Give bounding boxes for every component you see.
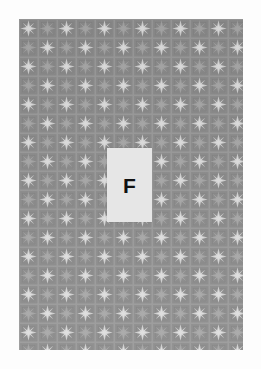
letter-card: F xyxy=(107,148,152,222)
image-canvas: F xyxy=(0,0,261,369)
card-letter-label: F xyxy=(123,175,136,196)
